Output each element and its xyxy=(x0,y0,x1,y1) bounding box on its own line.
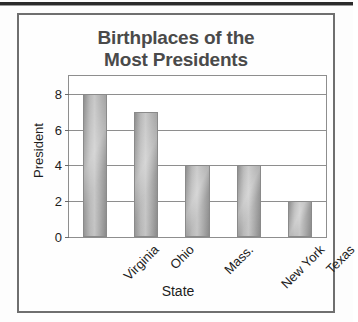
page-top-rule-shadow xyxy=(0,5,353,6)
y-axis-title: President xyxy=(31,106,46,196)
y-tick-label: 0 xyxy=(55,230,62,245)
plot-area: 02468 xyxy=(68,75,327,238)
y-tick-label: 4 xyxy=(55,158,62,173)
bar xyxy=(237,165,261,237)
x-tick-label: Virginia xyxy=(120,242,161,283)
x-tick-label: Mass. xyxy=(221,242,256,277)
x-tick-label: Ohio xyxy=(167,242,197,272)
plot-wrap: President 02468 VirginiaOhioMass.New Yor… xyxy=(19,15,337,315)
bars-layer xyxy=(69,76,326,237)
figure-frame: Birthplaces of the Most Presidents Presi… xyxy=(17,13,335,313)
x-axis-title: State xyxy=(19,283,337,299)
bar xyxy=(134,112,158,237)
bar xyxy=(83,94,107,237)
y-tick-label: 2 xyxy=(55,194,62,209)
y-tick-label: 6 xyxy=(55,122,62,137)
bar xyxy=(185,165,209,237)
x-tick-label: Texas xyxy=(323,242,358,277)
bar xyxy=(288,201,312,237)
y-tick-label: 8 xyxy=(55,86,62,101)
